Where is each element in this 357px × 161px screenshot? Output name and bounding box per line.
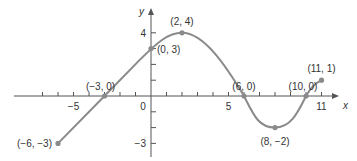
data-point-marker: [179, 30, 184, 35]
point-labels: (−6, −3)(−3, 0)(0, 3)(2, 4)(6, 0)(8, −2)…: [17, 16, 336, 150]
data-point-marker: [241, 93, 246, 98]
x-tick-label: 5: [226, 101, 232, 112]
x-tick-label: −5: [68, 101, 80, 112]
data-point-marker: [272, 125, 277, 130]
data-point-marker: [303, 93, 308, 98]
data-point-marker: [102, 93, 107, 98]
x-axis-arrow-icon: [332, 93, 339, 99]
y-axis-arrow-icon: [148, 8, 154, 15]
function-graph: xy−505114−3 (−6, −3)(−3, 0)(0, 3)(2, 4)(…: [0, 0, 357, 161]
point-label: (2, 4): [170, 16, 193, 27]
x-tick-label: 11: [316, 101, 327, 112]
point-label: (−3, 0): [86, 81, 115, 92]
point-label: (6, 0): [232, 81, 255, 92]
x-axis-label: x: [342, 100, 349, 111]
data-point-marker: [55, 141, 60, 146]
y-axis-label: y: [138, 6, 145, 17]
point-label: (−6, −3): [17, 138, 52, 149]
data-point-marker: [319, 78, 324, 83]
point-label: (10, 0): [289, 81, 318, 92]
point-label: (8, −2): [260, 136, 289, 147]
point-label: (0, 3): [157, 44, 180, 55]
data-point-marker: [148, 46, 153, 51]
y-tick-label: 4: [140, 28, 146, 39]
point-label: (11, 1): [307, 63, 335, 74]
x-tick-label: 0: [140, 101, 146, 112]
y-tick-label: −3: [135, 138, 147, 149]
